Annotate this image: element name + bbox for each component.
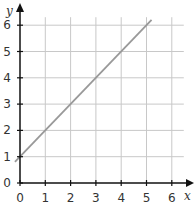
y-axis-arrow-icon xyxy=(16,3,24,12)
y-tick-label: 1 xyxy=(3,150,11,164)
axes xyxy=(16,3,194,187)
y-tick-label: 3 xyxy=(3,97,11,111)
x-tick-label: 1 xyxy=(41,191,49,205)
x-tick-label: 0 xyxy=(16,191,24,205)
y-tick-label: 2 xyxy=(3,123,11,137)
x-tick-label: 3 xyxy=(92,191,100,205)
x-tick-label: 5 xyxy=(143,191,151,205)
y-tick-label: 6 xyxy=(3,18,11,32)
y-tick-label: 0 xyxy=(3,176,11,190)
y-tick-label: 4 xyxy=(3,71,11,85)
tick-labels: 01234560123456 xyxy=(3,18,175,205)
series-line xyxy=(15,20,152,162)
grid xyxy=(20,17,184,183)
y-axis-label: y xyxy=(5,4,13,18)
x-tick-label: 4 xyxy=(117,191,125,205)
x-axis-label: x xyxy=(184,189,191,203)
y-tick-label: 5 xyxy=(3,45,11,59)
data-series xyxy=(15,20,152,162)
x-tick-label: 6 xyxy=(168,191,176,205)
x-tick-label: 2 xyxy=(67,191,75,205)
x-axis-arrow-icon xyxy=(186,179,194,187)
line-chart: 01234560123456 x y xyxy=(0,0,194,208)
